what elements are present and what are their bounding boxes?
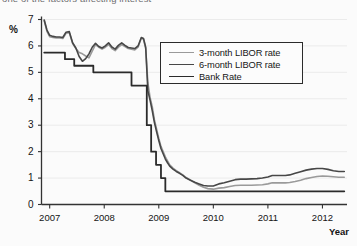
y-axis-tick-label: 7: [18, 14, 34, 25]
interest-rate-chart-figure: one of the factors affecting interest % …: [0, 0, 357, 246]
x-axis-tick-label: 2012: [302, 212, 342, 223]
chart-legend: 3-month LIBOR rate6-month LIBOR rateBank…: [160, 42, 303, 84]
x-axis-tick-label: 2007: [30, 212, 70, 223]
y-axis-tick-label: 6: [18, 40, 34, 51]
legend-item-label: 3-month LIBOR rate: [199, 48, 280, 58]
y-axis-tick-label: 2: [18, 146, 34, 157]
y-axis-tick-label: 5: [18, 66, 34, 77]
legend-item-2: 6-month LIBOR rate: [169, 59, 302, 70]
legend-line-swatch: [169, 76, 194, 77]
y-axis-tick-label: 3: [18, 119, 34, 130]
chart-plot-area: [0, 0, 357, 246]
legend-line-swatch: [169, 52, 194, 53]
x-axis-tick-label: 2010: [193, 212, 233, 223]
y-axis-tick-label: 0: [18, 199, 34, 210]
y-axis-tick-label: 4: [18, 93, 34, 104]
legend-item-3: Bank Rate: [169, 71, 302, 82]
x-axis-tick-label: 2011: [248, 212, 288, 223]
legend-item-label: Bank Rate: [199, 72, 242, 82]
legend-item-label: 6-month LIBOR rate: [199, 60, 280, 70]
legend-item-1: 3-month LIBOR rate: [169, 47, 302, 58]
legend-line-swatch: [169, 64, 194, 65]
x-axis-tick-label: 2009: [139, 212, 179, 223]
y-axis-tick-label: 1: [18, 172, 34, 183]
x-axis-tick-label: 2008: [84, 212, 124, 223]
